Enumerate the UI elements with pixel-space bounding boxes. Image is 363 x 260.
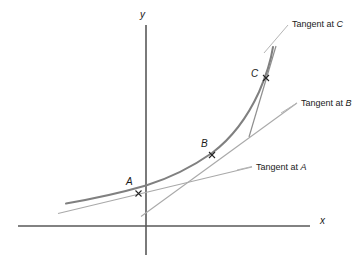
leader-lines-group xyxy=(237,25,297,170)
axes-group xyxy=(18,25,310,255)
tangent-line-c xyxy=(249,46,276,137)
tangent-c-annotation-text: Tangent at xyxy=(292,19,337,29)
point-label-c: C xyxy=(251,69,258,79)
tangent-b-annotation: Tangent at B xyxy=(301,99,352,108)
leader-line-b xyxy=(281,103,297,113)
leader-line-a xyxy=(237,167,252,171)
tangent-c-annotation: Tangent at C xyxy=(292,20,343,29)
exponential-curve xyxy=(66,47,273,204)
x-axis-label: x xyxy=(320,216,325,226)
tangent-b-annotation-variable: B xyxy=(346,98,352,108)
tangent-b-annotation-text: Tangent at xyxy=(301,98,346,108)
leader-line-c xyxy=(264,25,288,53)
tangent-line-b xyxy=(141,103,297,217)
point-label-b: B xyxy=(201,139,208,149)
tangent-a-annotation: Tangent at A xyxy=(256,163,307,172)
point-label-a: A xyxy=(126,177,133,187)
tangent-curve-figure: y x A B C Tangent at C Tangent at B Tang… xyxy=(0,0,363,260)
tangent-c-annotation-variable: C xyxy=(337,19,344,29)
tangent-a-annotation-variable: A xyxy=(301,162,307,172)
figure-canvas xyxy=(0,0,363,260)
y-axis-label: y xyxy=(140,10,145,20)
tangent-a-annotation-text: Tangent at xyxy=(256,162,301,172)
tangent-lines-group xyxy=(58,46,297,217)
